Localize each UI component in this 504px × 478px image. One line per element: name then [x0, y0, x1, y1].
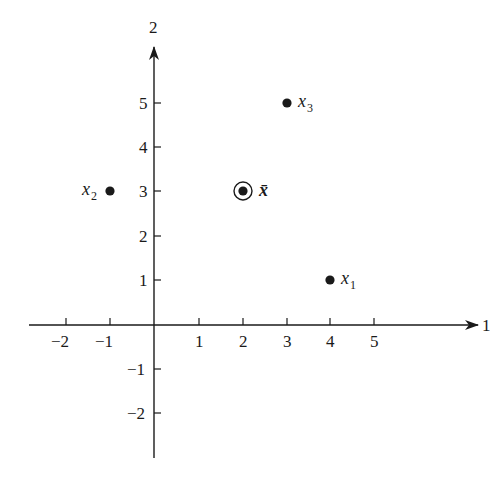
x-ticks: [66, 318, 374, 325]
point-x3: x3: [282, 91, 313, 115]
mean-label: x̄: [258, 180, 268, 200]
scatter-diagram: 1 2 −2 −1 1 2 3 4 5: [0, 0, 504, 478]
point-marker: [325, 275, 334, 284]
y-axis-label: 2: [149, 18, 158, 37]
x-axis-label: 1: [482, 316, 491, 335]
x-tick-label: −2: [51, 332, 69, 351]
x-tick-label: −1: [95, 332, 113, 351]
point-x2: x2: [81, 179, 115, 203]
x-tick-label: 3: [283, 332, 292, 351]
point-marker: [282, 98, 291, 107]
point-marker: [105, 186, 114, 195]
point-label: x1: [340, 268, 356, 292]
x-tick-label: 5: [370, 332, 379, 351]
mean-point: x̄: [234, 180, 268, 200]
point-label: x2: [81, 179, 97, 203]
mean-dot: [238, 186, 247, 195]
point-label: x3: [297, 91, 313, 115]
x-tick-label: 4: [326, 332, 335, 351]
diagram-canvas: 1 2 −2 −1 1 2 3 4 5: [0, 0, 504, 478]
x-tick-label: 2: [239, 332, 248, 351]
y-tick-label: −2: [127, 404, 145, 423]
y-ticks: [154, 103, 161, 413]
y-tick-label: 1: [139, 271, 148, 290]
y-tick-label: 5: [139, 94, 148, 113]
x-tick-label: 1: [195, 332, 204, 351]
point-x1: x1: [325, 268, 356, 292]
y-tick-labels: 5 4 3 2 1 −1 −2: [127, 94, 148, 423]
x-tick-labels: −2 −1 1 2 3 4 5: [51, 332, 379, 351]
y-tick-label: 2: [139, 227, 148, 246]
y-tick-label: −1: [127, 360, 145, 379]
y-tick-label: 4: [139, 138, 148, 157]
y-tick-label: 3: [139, 182, 148, 201]
